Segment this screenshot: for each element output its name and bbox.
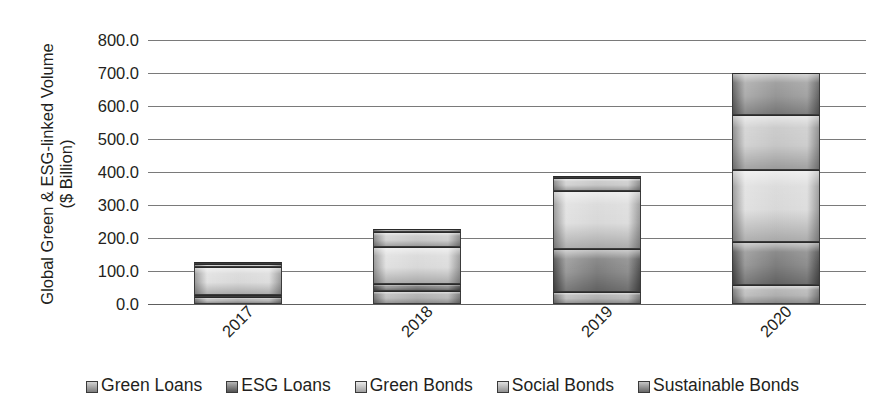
legend-item-label: ESG Loans	[241, 375, 331, 396]
plot-area	[148, 40, 866, 304]
y-tick-label: 800.0	[53, 32, 139, 48]
legend-item[interactable]: Green Loans	[86, 375, 202, 396]
square-swatch-icon	[355, 381, 367, 393]
y-tick-label: 0.0	[53, 296, 139, 312]
bar-segment[interactable]	[553, 292, 641, 304]
bar-segment[interactable]	[194, 262, 282, 265]
bar-segment[interactable]	[373, 229, 461, 233]
bar-segment[interactable]	[194, 264, 282, 267]
bar-segment[interactable]	[732, 285, 820, 304]
bar-segment-shading	[195, 265, 281, 266]
bar-segment[interactable]	[373, 247, 461, 284]
y-tick-label: 400.0	[53, 164, 139, 180]
bar-segment-shading	[374, 230, 460, 232]
stacked-bar-chart: Global Green & ESG-linked Volume ($ Bill…	[0, 0, 885, 420]
bar-segment[interactable]	[373, 232, 461, 247]
chart-legend: Green LoansESG LoansGreen BondsSocial Bo…	[0, 375, 885, 396]
legend-item[interactable]: Social Bonds	[497, 375, 614, 396]
bar-segment-shading	[374, 248, 460, 283]
bar-segment-shading	[195, 263, 281, 264]
legend-item[interactable]: Sustainable Bonds	[638, 375, 799, 396]
bar-segment[interactable]	[732, 170, 820, 242]
legend-item-label: Sustainable Bonds	[653, 375, 799, 396]
bar-segment-shading	[374, 285, 460, 290]
bar-segment-shading	[733, 286, 819, 303]
bar-segment[interactable]	[194, 267, 282, 295]
bar-segment[interactable]	[732, 115, 820, 170]
legend-item[interactable]: Green Bonds	[355, 375, 473, 396]
bar-segment-shading	[733, 171, 819, 241]
bar-segment-shading	[733, 243, 819, 284]
square-swatch-icon	[497, 381, 509, 393]
bar-segment-shading	[195, 298, 281, 303]
square-swatch-icon	[86, 381, 98, 393]
bar-segment[interactable]	[553, 178, 641, 192]
square-swatch-icon	[226, 381, 238, 393]
bar-group-2018[interactable]	[373, 40, 461, 304]
y-tick-label: 500.0	[53, 131, 139, 147]
y-tick-label: 600.0	[53, 98, 139, 114]
x-axis-tick-labels: 2017201820192020	[148, 306, 866, 366]
bar-segment[interactable]	[373, 291, 461, 304]
bar-group-2020[interactable]	[732, 40, 820, 304]
y-tick-label: 300.0	[53, 197, 139, 213]
bar-segment[interactable]	[194, 295, 282, 297]
bar-segment[interactable]	[732, 73, 820, 115]
legend-item-label: Green Loans	[101, 375, 202, 396]
bar-segment[interactable]	[373, 284, 461, 291]
y-tick-label: 700.0	[53, 65, 139, 81]
bar-segment-shading	[374, 292, 460, 303]
bar-segment-shading	[733, 116, 819, 169]
bar-segment-shading	[374, 233, 460, 246]
bar-segment-shading	[554, 250, 640, 291]
legend-item-label: Green Bonds	[370, 375, 473, 396]
bar-segment-shading	[733, 74, 819, 114]
bar-segment[interactable]	[553, 176, 641, 178]
legend-item[interactable]: ESG Loans	[226, 375, 331, 396]
bar-segment-shading	[554, 192, 640, 247]
y-tick-label: 200.0	[53, 230, 139, 246]
bar-segment[interactable]	[732, 242, 820, 285]
square-swatch-icon	[638, 381, 650, 393]
bar-group-2017[interactable]	[194, 40, 282, 304]
bar-segment[interactable]	[553, 249, 641, 292]
bar-group-2019[interactable]	[553, 40, 641, 304]
bar-segment-shading	[554, 179, 640, 191]
bar-segment-shading	[554, 293, 640, 303]
bar-segment-shading	[195, 268, 281, 294]
bar-segment[interactable]	[553, 191, 641, 248]
y-tick-label: 100.0	[53, 263, 139, 279]
legend-item-label: Social Bonds	[512, 375, 614, 396]
bar-segment[interactable]	[194, 297, 282, 304]
